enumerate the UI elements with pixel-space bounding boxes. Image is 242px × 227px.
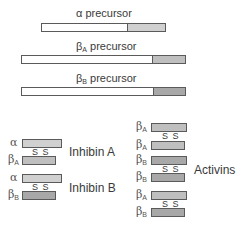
activins-label: Activins — [194, 164, 235, 177]
alpha-precursor-bar — [41, 23, 166, 32]
subscript-b: B — [142, 211, 147, 218]
betaB-precursor-label: βB precursor — [76, 72, 137, 84]
betaB-mature-segment — [153, 88, 185, 95]
subscript-a: A — [82, 46, 87, 53]
subscript-b: B — [82, 78, 87, 85]
subscript-a: A — [142, 126, 147, 133]
subscript-b: B — [142, 176, 147, 183]
alpha-precursor-label: α precursor — [76, 7, 132, 19]
alpha-precursor-text: precursor — [85, 7, 131, 19]
betaB-precursor-text: precursor — [90, 72, 136, 84]
betaA-precursor-label: βA precursor — [76, 40, 137, 52]
inhibinA-betaA-label: βA — [8, 154, 19, 166]
betaA-mature-segment — [152, 56, 185, 63]
alpha-symbol: α — [10, 171, 17, 184]
inhibinB-betaB-subunit — [22, 191, 56, 200]
betaA-precursor-bar — [21, 55, 186, 64]
activin3-top-label: βA — [136, 189, 147, 201]
inhibinB-label: Inhibin B — [69, 182, 116, 195]
betaB-precursor-bar — [21, 87, 186, 96]
betaB-propeptide-segment — [22, 88, 153, 95]
activin2-top-label: βB — [136, 154, 147, 166]
subscript-a: A — [142, 144, 147, 151]
inhibinA-betaA-subunit — [22, 156, 56, 165]
alpha-symbol: α — [10, 136, 17, 149]
subscript-b: B — [14, 194, 19, 201]
activin1-bottom-label: βA — [136, 139, 147, 151]
activin2-bottom-label: βB — [136, 171, 147, 183]
alpha-propeptide-segment — [42, 24, 127, 31]
subscript-b: B — [142, 159, 147, 166]
activin1-top-label: βA — [136, 121, 147, 133]
inhibinB-betaB-label: βB — [8, 189, 19, 201]
betaA-precursor-text: precursor — [90, 40, 136, 52]
subscript-a: A — [14, 159, 19, 166]
activin2-bottom-subunit — [151, 173, 185, 182]
alpha-mature-segment — [127, 24, 165, 31]
alpha-symbol: α — [76, 7, 82, 19]
betaA-propeptide-segment — [22, 56, 152, 63]
inhibinB-alpha-label: α — [10, 172, 17, 184]
activin1-bottom-subunit — [151, 141, 185, 150]
activin3-bottom-subunit — [151, 208, 185, 217]
subscript-a: A — [142, 194, 147, 201]
inhibinA-label: Inhibin A — [69, 146, 115, 159]
activin3-bottom-label: βB — [136, 206, 147, 218]
activin1-disulfide-bond: S S — [162, 132, 180, 141]
inhibinA-alpha-label: α — [10, 137, 17, 149]
